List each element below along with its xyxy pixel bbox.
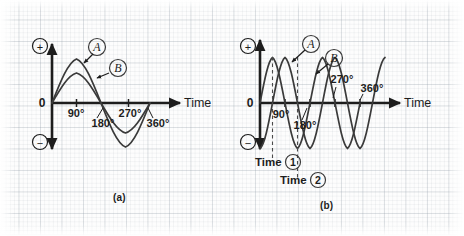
panel-a-time-axis-label: Time (184, 96, 211, 110)
panel-b-origin-label: 0 (247, 96, 254, 110)
panel-a-origin-label: 0 (39, 96, 46, 110)
panel-b-leader-360 (360, 94, 363, 100)
panel-b-marker-1-label: Time (255, 156, 282, 168)
panel-a-minus-symbol: − (37, 137, 43, 149)
panel-b-minus-symbol: − (245, 137, 251, 149)
panel-b-marker-1-number: 1 (290, 156, 296, 168)
figure-container: A B + − 0 Time 90° 180° 270° 360° (0, 0, 464, 236)
panel-a-ticklabel-90: 90° (68, 107, 85, 119)
panel-b-ticklabel-180: 180° (294, 119, 317, 131)
panel-a-label-B: B (114, 61, 122, 75)
panel-b-ticklabel-90: 90° (273, 108, 290, 120)
panel-b-leader-A (292, 50, 305, 62)
panel-a: A B + − 0 Time 90° 180° 270° 360° (33, 39, 212, 150)
figure-plot: A B + − 0 Time 90° 180° 270° 360° (0, 0, 464, 236)
panel-a-caption: (a) (113, 192, 126, 203)
panel-b-marker-2-label: Time (280, 174, 307, 186)
panel-a-ticklabel-360: 360° (147, 117, 170, 129)
panel-b-label-B: B (330, 51, 338, 65)
panel-b-ticklabel-270: 270° (331, 73, 354, 85)
panel-a-label-A: A (92, 40, 101, 54)
panel-a-ticklabel-270: 270° (119, 107, 142, 119)
panel-b-label-A: A (306, 37, 315, 51)
panel-a-ticklabel-180: 180° (92, 117, 115, 129)
panel-b-time-axis-label: Time (404, 96, 431, 110)
panel-b: A B + − 0 Time 90° 180° 270° 360° Time (241, 36, 432, 188)
panel-b-plus-symbol: + (245, 41, 251, 53)
panel-a-leader-A (84, 54, 93, 63)
panel-b-caption: (b) (320, 200, 333, 211)
panel-b-marker-2-number: 2 (315, 174, 321, 186)
panel-b-ticklabel-360: 360° (361, 82, 384, 94)
panel-a-plus-symbol: + (37, 41, 43, 53)
panel-a-leader-B (97, 73, 109, 78)
